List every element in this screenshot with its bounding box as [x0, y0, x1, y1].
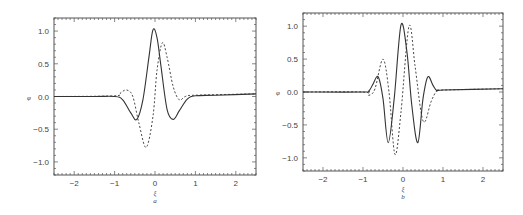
y-axis-label: φ [27, 94, 31, 102]
x-tick-label: −1 [110, 179, 120, 188]
dashed-curve [303, 25, 503, 155]
panel-a: −2−10121.00.50.0−0.5−1.0ξφa [27, 18, 256, 205]
y-tick-label: −1.0 [282, 154, 298, 163]
y-tick-label: −1.0 [33, 158, 49, 167]
y-tick-label: −0.5 [282, 121, 298, 130]
solid-curve [303, 23, 503, 142]
x-tick-label: 2 [481, 175, 486, 184]
panel-label: b [401, 193, 405, 201]
x-tick-label: −1 [358, 175, 368, 184]
x-tick-label: 0 [401, 175, 406, 184]
x-axis-label: ξ [154, 189, 157, 197]
solid-curve [54, 29, 256, 120]
figure: −2−10121.00.50.0−0.5−1.0ξφa −2−10121.00.… [0, 0, 523, 215]
x-axis-label: ξ [402, 185, 405, 193]
x-tick-label: 1 [441, 175, 446, 184]
y-axis-label: φ [276, 89, 280, 97]
y-tick-label: 0.5 [287, 55, 299, 64]
panel-b: −2−10121.00.50.0−0.5−1.0ξφb [276, 13, 503, 201]
y-tick-label: 1.0 [38, 27, 50, 36]
x-tick-label: 2 [234, 179, 239, 188]
y-tick-label: 1.0 [287, 22, 299, 31]
panel-label: a [153, 197, 157, 205]
x-tick-label: 1 [193, 179, 198, 188]
x-tick-label: −2 [318, 175, 328, 184]
y-tick-label: −0.5 [33, 125, 49, 134]
x-tick-label: 0 [153, 179, 158, 188]
y-tick-label: 0.5 [38, 60, 50, 69]
y-tick-label: 0.0 [38, 93, 50, 102]
x-tick-label: −2 [70, 179, 80, 188]
y-tick-label: 0.0 [287, 88, 299, 97]
